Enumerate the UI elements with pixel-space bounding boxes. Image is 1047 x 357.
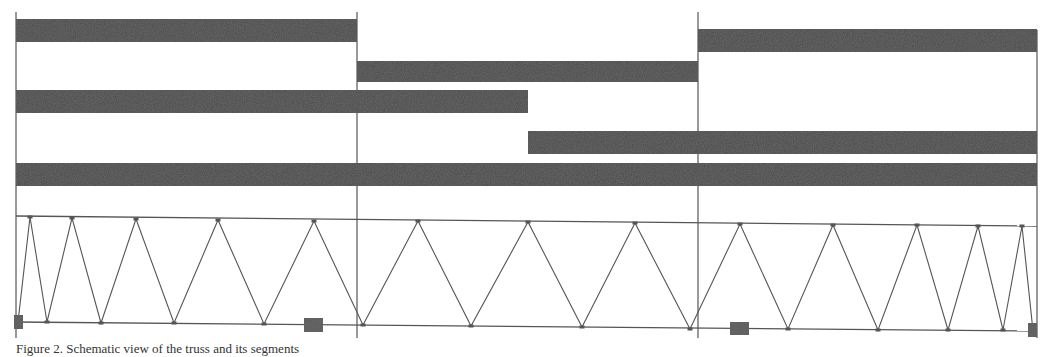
joint-node — [45, 321, 50, 324]
joint-node — [1020, 225, 1025, 228]
segment-bar — [357, 61, 698, 82]
support-plate — [304, 318, 323, 332]
joint-node — [416, 220, 421, 223]
figure-caption: Figure 2. Schematic view of the truss an… — [16, 341, 299, 357]
joint-node — [312, 220, 317, 223]
joint-node — [688, 328, 693, 331]
bottom-chord — [16, 322, 1037, 331]
web-members — [18, 217, 1033, 331]
support-plate — [14, 315, 23, 329]
joint-node — [216, 219, 221, 222]
joint-node — [70, 217, 75, 220]
truss — [14, 216, 1037, 338]
joint-node — [28, 216, 33, 219]
joint-node — [172, 322, 177, 325]
joint-node — [99, 322, 104, 325]
joint-node — [469, 325, 474, 328]
joint-node — [361, 324, 366, 327]
support-plate — [730, 322, 749, 335]
segment-bar — [528, 131, 1037, 154]
joint-node — [580, 326, 585, 329]
joint-node — [915, 224, 920, 227]
joint-node — [976, 225, 981, 228]
support-plate — [1028, 323, 1037, 337]
segment-bar — [698, 29, 1037, 52]
joint-node — [831, 224, 836, 227]
segment-bar — [16, 90, 528, 113]
joint-node — [633, 222, 638, 225]
joint-node — [1001, 329, 1006, 332]
joint-node — [946, 329, 951, 332]
joint-node — [134, 218, 139, 221]
segment-bars — [16, 19, 1037, 186]
joint-node — [786, 328, 791, 331]
segment-bar — [16, 163, 1037, 186]
joint-node — [262, 323, 267, 326]
joint-node — [526, 221, 531, 224]
joint-node — [876, 329, 881, 332]
segment-bar — [16, 19, 357, 42]
joint-node — [738, 223, 743, 226]
